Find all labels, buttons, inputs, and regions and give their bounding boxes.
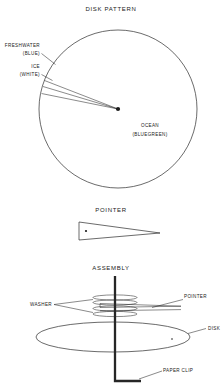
freshwater-leader-line [42,54,56,65]
assembly-pointer-blade [100,304,181,308]
paper-clip-rod [115,276,141,381]
ocean-label-line1: OCEAN [141,123,159,128]
assembly-panel: ASSEMBLY WASHER POINTER DISK PAPER CLIP [30,265,221,381]
assembly-pointer-blade-shadow [100,310,181,311]
freshwater-label-line1: FRESHWATER [5,43,40,48]
freshwater-label-line2: (BLUE) [23,51,40,56]
assembly-disk-leader-line [188,329,206,334]
washer-leader-line-upper [54,300,93,305]
disk-pattern-panel: DISK PATTERN FRESHWATER (BLUE) ICE (WHIT… [5,6,197,188]
washer-leader-line-lower [54,305,93,313]
washer-label: WASHER [30,302,52,307]
assembly-title: ASSEMBLY [92,265,130,271]
disk-center-hub [116,107,120,111]
freshwater-wedge-upper-edge [45,81,119,110]
assembly-disk-mark [171,338,173,340]
freshwater-ice-wedge-divider [43,87,118,110]
ocean-label-line2: (BLUEGREEN) [132,132,167,137]
paper-clip-leader-line [139,371,162,379]
paper-clip-label: PAPER CLIP [163,368,193,373]
ice-leader-line [42,75,53,81]
pointer-panel: POINTER [79,207,160,240]
ice-wedge-lower-edge [42,94,119,110]
ice-label-line1: ICE [31,64,40,69]
assembly-disk-label: DISK [208,326,221,331]
diagram-canvas: DISK PATTERN FRESHWATER (BLUE) ICE (WHIT… [0,0,222,392]
pointer-pivot-hole [85,230,87,232]
ice-label-line2: (WHITE) [20,72,40,77]
assembly-disk-ellipse [36,322,190,352]
pointer-title: POINTER [95,207,127,213]
assembly-pointer-label: POINTER [184,294,207,299]
disk-pattern-title: DISK PATTERN [85,6,136,12]
pointer-wedge-shape [79,222,160,240]
